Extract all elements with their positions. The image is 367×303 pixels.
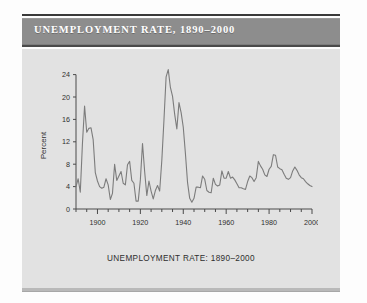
page-background: UNEMPLOYMENT RATE, 1890–2000 Percent 048… [0,0,367,303]
x-tick-label: 1960 [218,218,234,227]
unemployment-line-chart: 04812162024 190019201940196019802000 [46,63,318,235]
y-axis: 04812162024 [62,70,76,213]
plot-area: Percent 04812162024 19001920194019601980… [46,63,318,235]
x-tick-label: 1920 [132,218,148,227]
y-tick-label: 16 [62,115,70,124]
series-line-unemployment-rate [76,70,312,203]
title-bottom-rule [22,45,340,47]
title-bar: UNEMPLOYMENT RATE, 1890–2000 [22,18,340,45]
y-tick-label: 4 [66,182,70,191]
panel-bottom-edge [22,288,340,292]
x-tick-label: 1940 [175,218,191,227]
y-tick-label: 0 [66,205,70,214]
page-title: UNEMPLOYMENT RATE, 1890–2000 [34,24,235,35]
title-top-rule [22,14,340,16]
y-tick-label: 8 [66,160,70,169]
x-axis: 190019201940196019802000 [76,209,318,227]
figure-caption: UNEMPLOYMENT RATE: 1890–2000 [22,254,340,263]
y-tick-label: 24 [62,70,70,79]
figure-panel: Percent 04812162024 19001920194019601980… [22,49,340,290]
y-tick-label: 12 [62,137,70,146]
y-tick-label: 20 [62,93,70,102]
y-axis-label: Percent [39,132,48,160]
x-tick-label: 2000 [304,218,318,227]
x-tick-label: 1980 [261,218,277,227]
x-tick-label: 1900 [89,218,105,227]
